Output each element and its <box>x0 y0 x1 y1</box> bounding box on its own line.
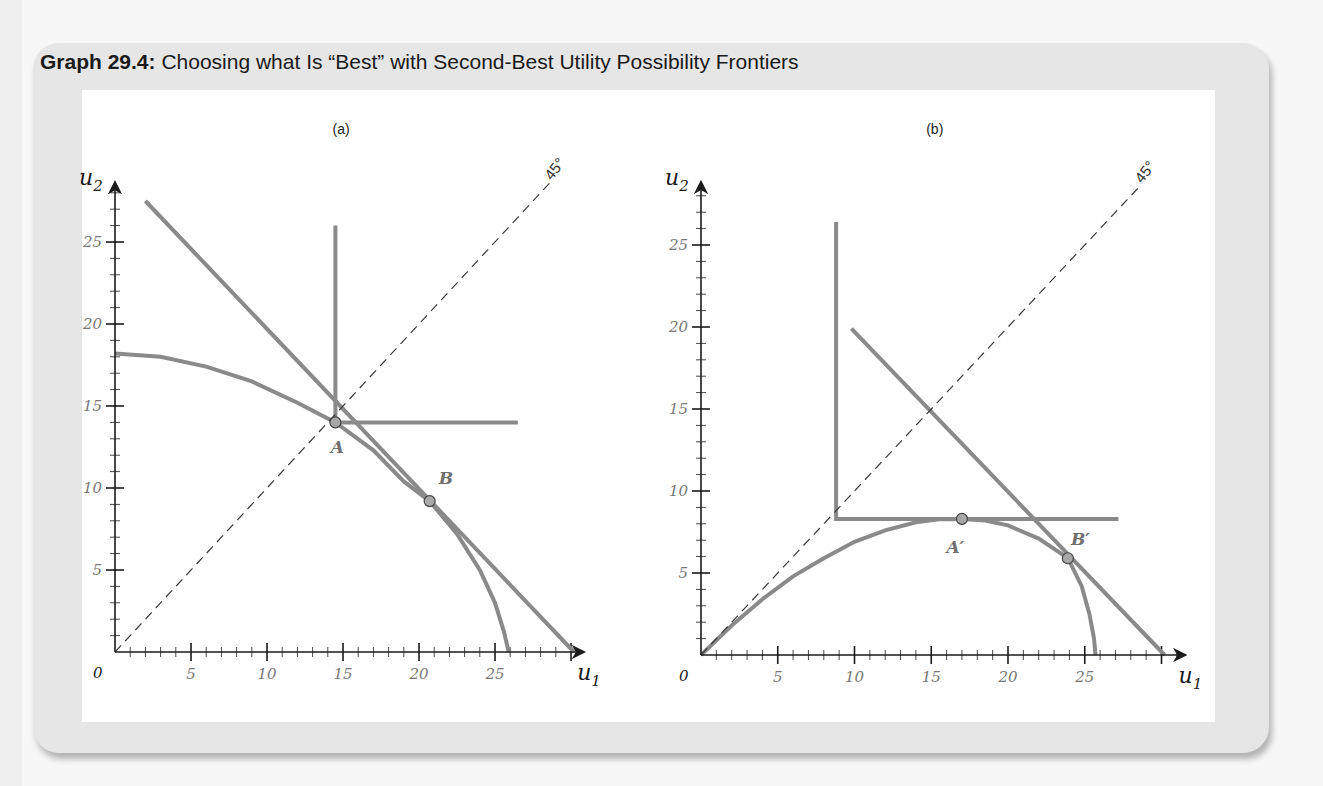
x-tick-label: 20 <box>997 668 1018 686</box>
point-marker <box>424 496 435 507</box>
rawlsian-indifference-curve <box>335 226 517 423</box>
x-axis-label: u1 <box>577 660 601 690</box>
y-tick-label: 15 <box>83 397 102 415</box>
x-tick-label: 5 <box>773 668 783 686</box>
frontier-curve <box>701 519 1096 655</box>
x-tick-label: 10 <box>845 668 865 686</box>
y-axis-label: u2 <box>665 165 689 195</box>
panel-label: (b) <box>926 121 943 137</box>
straight-frontier-line <box>145 201 574 652</box>
y-tick-label: 15 <box>669 400 688 418</box>
origin-label: 0 <box>679 667 689 685</box>
diagonal-45-line <box>701 186 1140 655</box>
diagonal-label: 45° <box>1131 157 1158 185</box>
y-tick-label: 10 <box>669 482 689 500</box>
y-tick-label: 20 <box>82 315 103 333</box>
point-label: A <box>329 437 344 457</box>
chart-panel-b: (b)510152025510152025045°u1u2A′B′ <box>665 121 1202 693</box>
point-label: A′ <box>945 537 965 557</box>
y-tick-label: 5 <box>678 564 688 582</box>
diagonal-label: 45° <box>541 154 568 182</box>
utility-possibility-charts: (a)510152025510152025045°u1u2AB (b)51015… <box>0 0 1323 786</box>
panel-label: (a) <box>333 121 350 137</box>
x-tick-label: 15 <box>333 665 352 683</box>
point-marker <box>956 513 967 524</box>
y-tick-label: 25 <box>82 233 102 251</box>
y-tick-label: 5 <box>92 561 102 579</box>
point-marker <box>1062 553 1073 564</box>
straight-frontier-line <box>851 329 1164 655</box>
frontier-curve <box>115 354 509 653</box>
x-tick-label: 25 <box>1074 668 1094 686</box>
point-label: B <box>438 468 453 488</box>
y-tick-label: 10 <box>83 479 103 497</box>
origin-label: 0 <box>93 664 103 682</box>
x-tick-label: 5 <box>186 665 196 683</box>
point-marker <box>330 417 341 428</box>
y-tick-label: 20 <box>668 318 689 336</box>
x-tick-label: 10 <box>257 665 277 683</box>
x-tick-label: 15 <box>922 668 941 686</box>
chart-panel-a: (a)510152025510152025045°u1u2AB <box>79 121 601 690</box>
x-axis-label: u1 <box>1179 663 1203 693</box>
x-tick-label: 25 <box>484 665 504 683</box>
rawlsian-indifference-curve <box>836 222 1118 519</box>
x-tick-label: 20 <box>408 665 429 683</box>
y-axis-label: u2 <box>79 165 103 195</box>
y-tick-label: 25 <box>668 236 688 254</box>
point-label: B′ <box>1070 529 1090 549</box>
